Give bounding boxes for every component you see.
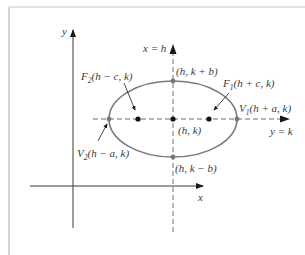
label-vertex-1: V1(h + a, k) xyxy=(239,102,291,117)
top-covertex-point xyxy=(171,79,176,84)
ellipse-diagram: y x x = h y = k (h, k + b) (h, k) (h, k … xyxy=(0,0,305,255)
label-top-covertex: (h, k + b) xyxy=(176,65,218,78)
line-y-equals-k-arrow xyxy=(280,116,290,123)
label-bottom-covertex: (h, k − b) xyxy=(175,162,217,175)
vertex-2-point xyxy=(107,117,112,122)
label-center: (h, k) xyxy=(178,124,202,137)
center-point xyxy=(170,116,175,121)
label-x-equals-h: x = h xyxy=(142,42,167,54)
focus-1-point xyxy=(206,116,211,121)
label-vertex-2: V2(h − a, k) xyxy=(77,147,129,162)
y-axis-label: y xyxy=(61,25,67,37)
line-x-equals-h-arrow xyxy=(170,44,177,54)
focus-2-point xyxy=(135,116,140,121)
bottom-covertex-point xyxy=(171,155,176,160)
vertex-2-pointer xyxy=(98,124,107,141)
vertex-1-point xyxy=(235,117,240,122)
focus-2-pointer xyxy=(124,83,135,110)
label-focus-2: F2(h − c, k) xyxy=(80,70,133,85)
label-focus-1: F1(h + c, k) xyxy=(222,77,275,92)
focus-1-pointer xyxy=(214,93,229,110)
x-axis-label: x xyxy=(197,191,203,203)
label-y-equals-k: y = k xyxy=(269,125,294,137)
